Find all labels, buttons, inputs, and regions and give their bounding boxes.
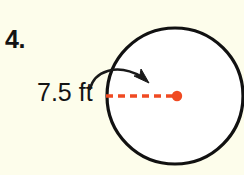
problem-number-label: 4.	[5, 27, 25, 52]
radius-measurement-label: 7.5 ft	[37, 80, 93, 105]
geometry-figure: 4. 7.5 ft	[0, 0, 244, 175]
center-point-dot	[172, 91, 182, 101]
